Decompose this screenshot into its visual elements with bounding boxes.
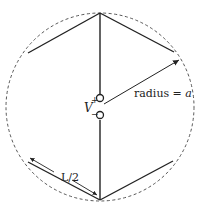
lower-dipole-arm (28, 120, 173, 200)
radius-label: radius = a (134, 87, 192, 100)
antenna-diagram: radius = a V + − L/2 (0, 0, 200, 212)
upper-dipole-arm (28, 13, 174, 94)
plus-sign: + (91, 95, 99, 105)
half-length-label: L/2 (61, 171, 79, 184)
minus-sign: − (91, 109, 99, 119)
